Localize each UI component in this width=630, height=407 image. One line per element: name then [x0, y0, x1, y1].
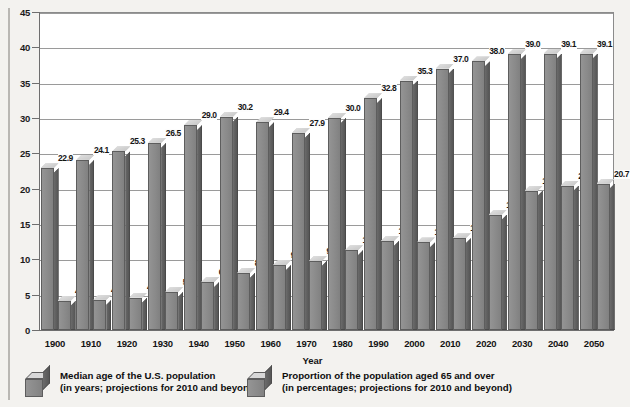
y-axis-tick-label: 45 — [8, 7, 30, 18]
bar-value-label: 26.5 — [165, 129, 181, 138]
bar — [489, 215, 502, 330]
bar-front-face — [41, 168, 54, 330]
bar-side-face — [214, 282, 219, 330]
y-axis-tick-mark — [32, 12, 39, 13]
y-axis-tick-mark — [32, 118, 39, 119]
bar — [220, 117, 233, 330]
y-axis-tick-label: 10 — [8, 254, 30, 265]
bar-top-face — [129, 293, 147, 298]
bar-top-face — [256, 117, 274, 122]
bar-front-face — [165, 292, 178, 330]
y-axis-tick-label: 25 — [8, 148, 30, 159]
bar-top-face — [508, 49, 526, 54]
bar — [436, 69, 449, 330]
bar — [129, 298, 142, 331]
bar-value-label: 35.3 — [417, 67, 433, 76]
bar-value-label: 39.1 — [561, 40, 577, 49]
bar-top-face — [453, 233, 471, 238]
bar-front-face — [328, 118, 341, 330]
x-axis-tick-label: 2050 — [572, 338, 616, 349]
y-axis-tick-mark — [32, 189, 39, 190]
bar-front-face — [112, 151, 125, 330]
bar-top-face — [273, 260, 291, 265]
bar-top-face — [345, 245, 363, 250]
bar — [525, 191, 538, 330]
bar — [76, 160, 89, 330]
bar-front-face — [436, 69, 449, 330]
bar-front-face — [309, 261, 322, 330]
bar-top-face — [364, 93, 382, 98]
bar — [256, 122, 269, 330]
y-axis-tick-label: 35 — [8, 78, 30, 89]
x-axis-line — [39, 330, 614, 331]
bar-side-face — [358, 250, 363, 330]
y-axis-tick-label: 0 — [8, 325, 30, 336]
legend-label-median-age: Median age of the U.S. population (in ye… — [60, 370, 258, 393]
bar-side-face — [466, 238, 471, 330]
bar — [508, 54, 521, 330]
bar — [417, 242, 430, 330]
bar-top-face — [580, 49, 598, 54]
bar — [292, 133, 305, 330]
bar — [561, 186, 574, 330]
bar-front-face — [58, 301, 71, 330]
bar-top-face — [525, 186, 543, 191]
legend-item-proportion-65-over: Proportion of the population aged 65 and… — [247, 370, 512, 398]
bar-value-label: 20.7 — [614, 170, 630, 179]
bar-top-face — [400, 76, 418, 81]
bar — [201, 282, 214, 330]
bar-top-face — [417, 237, 435, 242]
bar-value-label: 39.0 — [525, 40, 541, 49]
bar-top-face — [381, 236, 399, 241]
bar-value-label: 30.2 — [237, 103, 253, 112]
bar-top-face — [561, 181, 579, 186]
legend-label-line2: (in percentages; projections for 2010 an… — [282, 382, 512, 394]
bar-side-face — [502, 215, 507, 330]
bar-front-face — [148, 143, 161, 330]
bar — [237, 273, 250, 330]
legend-item-median-age: Median age of the U.S. population (in ye… — [25, 370, 258, 398]
bar-front-face — [201, 282, 214, 330]
bar-front-face — [364, 98, 377, 330]
bar-front-face — [381, 241, 394, 330]
bar-front-face — [544, 54, 557, 330]
bar-value-label: 24.1 — [93, 146, 109, 155]
bar-value-label: 30.0 — [345, 104, 361, 113]
bar-front-face — [292, 133, 305, 330]
y-axis-tick-label: 30 — [8, 113, 30, 124]
bar-value-label: 37.0 — [453, 55, 469, 64]
bar-top-face — [489, 210, 507, 215]
bar-top-face — [93, 295, 111, 300]
bar-top-face — [328, 113, 346, 118]
bar-top-face — [472, 56, 490, 61]
bar-front-face — [129, 298, 142, 331]
bar-top-face — [148, 138, 166, 143]
bar — [58, 301, 71, 330]
bar-front-face — [237, 273, 250, 330]
bar-front-face — [508, 54, 521, 330]
bar — [345, 250, 358, 330]
bar-front-face — [76, 160, 89, 330]
bar-side-face — [106, 300, 111, 330]
bar — [184, 125, 197, 330]
bar — [93, 300, 106, 330]
legend-label-line1: Median age of the U.S. population — [60, 370, 258, 382]
bar-value-label: 25.3 — [129, 137, 145, 146]
y-axis-tick-mark — [32, 330, 39, 331]
bar-top-face — [597, 179, 615, 184]
bar-top-face — [292, 128, 310, 133]
y-axis-tick-mark — [32, 259, 39, 260]
bar-side-face — [178, 292, 183, 330]
bar-front-face — [597, 184, 610, 330]
bar-top-face — [220, 112, 238, 117]
page-border-left — [8, 8, 10, 400]
bar — [165, 292, 178, 330]
legend-swatch-icon — [25, 372, 51, 398]
y-axis-tick-label: 5 — [8, 290, 30, 301]
bar-front-face — [580, 54, 593, 330]
bar-front-face — [220, 117, 233, 330]
bar-side-face — [430, 242, 435, 330]
legend-label-proportion-65-over: Proportion of the population aged 65 and… — [282, 370, 512, 393]
bar-front-face — [453, 238, 466, 330]
